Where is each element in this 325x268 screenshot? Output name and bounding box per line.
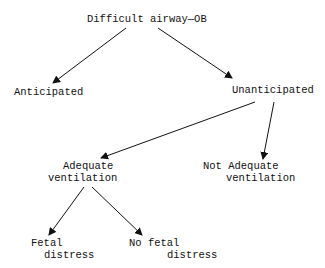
node-no-fetal-distress-line1: No fetal — [129, 237, 179, 249]
edge-adequate-fetal-distress — [49, 187, 84, 235]
node-root: Difficult airway—OB — [87, 13, 207, 25]
edge-unanticipated-adequate — [101, 102, 255, 158]
node-no-fetal-distress-line2: distress — [167, 249, 217, 261]
node-fetal-distress-line1: Fetal — [31, 237, 63, 249]
edge-unanticipated-not-adequate — [263, 102, 274, 159]
node-adequate-line1: Adequate — [63, 160, 113, 172]
edge-root-anticipated — [53, 28, 126, 83]
edges-layer — [0, 0, 325, 268]
diagram-canvas: Difficult airway—OB Anticipated Unantici… — [0, 0, 325, 268]
node-unanticipated: Unanticipated — [232, 84, 314, 96]
node-not-adequate-line2: ventilation — [226, 172, 295, 184]
node-anticipated: Anticipated — [14, 86, 83, 98]
node-adequate-line2: ventilation — [48, 172, 117, 184]
edge-adequate-no-fetal-distress — [92, 187, 142, 235]
node-not-adequate-line1: Not Adequate — [203, 160, 279, 172]
node-fetal-distress-line2: distress — [44, 249, 94, 261]
edge-root-unanticipated — [158, 28, 232, 78]
